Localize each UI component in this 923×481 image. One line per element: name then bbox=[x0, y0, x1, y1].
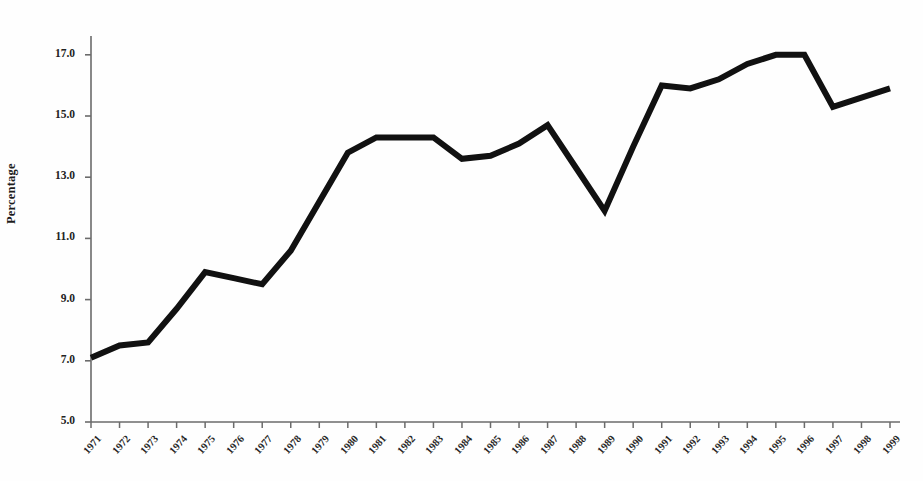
line-chart-plot bbox=[0, 0, 923, 481]
y-tick-label: 7.0 bbox=[35, 353, 75, 365]
y-tick-label: 9.0 bbox=[35, 292, 75, 304]
y-tick-label: 15.0 bbox=[35, 108, 75, 120]
y-tick-label: 13.0 bbox=[35, 169, 75, 181]
y-tick-label: 11.0 bbox=[35, 230, 75, 242]
y-tick-label: 5.0 bbox=[35, 414, 75, 426]
y-axis-ticks bbox=[85, 55, 91, 422]
y-tick-label: 17.0 bbox=[35, 47, 75, 59]
chart-figure: Percentage 5.07.09.011.013.015.017.0 197… bbox=[0, 0, 923, 481]
data-line-percentage bbox=[91, 55, 890, 358]
x-axis-ticks bbox=[91, 422, 890, 428]
data-series-group bbox=[91, 55, 890, 358]
axis-lines bbox=[91, 36, 900, 422]
